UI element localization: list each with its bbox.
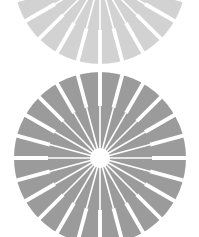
spoke-slot (98, 30, 102, 66)
sunburst-artwork (0, 0, 199, 237)
top-wheel (12, 0, 188, 66)
bottom-wheel (12, 70, 188, 237)
spoke-slot (152, 156, 188, 160)
wheel-hub (90, 148, 110, 168)
spoke-slot (12, 156, 48, 160)
spoke-slot (98, 70, 102, 106)
spoke-slot (98, 210, 102, 237)
